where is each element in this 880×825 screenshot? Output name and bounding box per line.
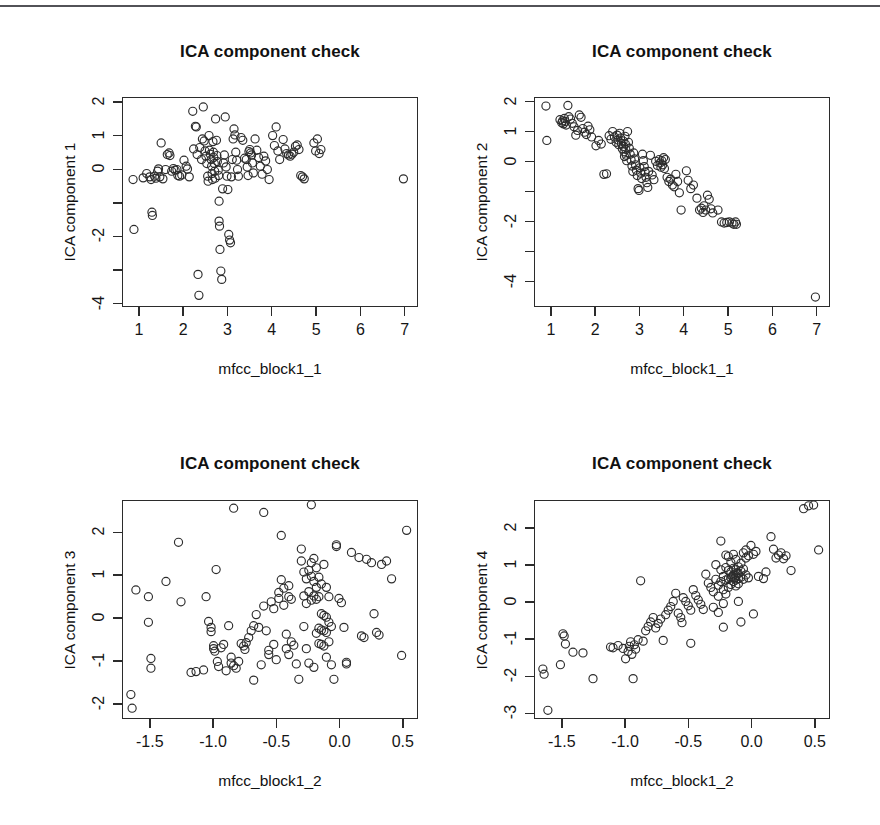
panel-4-title: ICA component check (462, 454, 880, 474)
panel-2-plot-area (534, 97, 830, 307)
panel-4-x-tick (561, 719, 562, 728)
panel-4-x-tick (624, 719, 625, 728)
panel-3-x-tick (402, 719, 403, 728)
panel-1-y-tick (113, 303, 122, 304)
panel-4-y-tick (525, 638, 534, 639)
chart-panel-4: ICA component check mfcc_block1_2 ICA co… (440, 412, 880, 824)
panel-3-y-axis-title: ICA component 3 (61, 550, 79, 669)
panel-2-y-tick (525, 191, 534, 192)
panel-3-y-tick-label: -1 (90, 638, 108, 682)
chart-panel-3: ICA component check mfcc_block1_2 ICA co… (0, 412, 440, 824)
panel-1-x-tick (315, 307, 316, 316)
panel-1-y-tick (113, 202, 122, 203)
panel-4-x-tick (814, 719, 815, 728)
panel-1-y-tick (113, 269, 122, 270)
panel-1-y-tick-label: -2 (90, 213, 108, 257)
panel-1-x-tick (182, 307, 183, 316)
panel-3-y-tick (113, 660, 122, 661)
panel-4-x-tick (688, 719, 689, 728)
panel-2-x-tick (550, 307, 551, 316)
panel-1-y-tick (113, 135, 122, 136)
panel-2-x-axis-title: mfcc_block1_1 (532, 360, 832, 378)
panel-3-y-tick (113, 617, 122, 618)
panel-4-y-tick (525, 601, 534, 602)
panel-3-x-tick-label: -1.0 (183, 733, 243, 751)
panel-1-x-tick-label: 7 (375, 321, 435, 339)
panel-2-x-tick (594, 307, 595, 316)
panel-3-plot-area (122, 500, 418, 719)
panel-1-scatter-points (123, 98, 417, 306)
panel-4-x-tick-label: 0.5 (785, 733, 845, 751)
panel-1-y-tick-label: -4 (90, 281, 108, 325)
panel-1-x-tick (404, 307, 405, 316)
panel-2-y-tick (525, 221, 534, 222)
panel-4-y-tick (525, 564, 534, 565)
panel-4-y-tick (525, 713, 534, 714)
panel-2-x-tick (639, 307, 640, 316)
chart-panel-1: ICA component check mfcc_block1_1 ICA co… (0, 0, 440, 412)
panel-1-plot-area (122, 97, 418, 307)
panel-1-title: ICA component check (50, 42, 490, 62)
panel-1-y-axis-title: ICA component 1 (61, 143, 79, 262)
panel-3-y-tick (113, 574, 122, 575)
panel-3-y-tick-label: -2 (90, 681, 108, 725)
panel-2-y-tick-label: 0 (502, 139, 520, 183)
panel-3-x-tick (212, 719, 213, 728)
panel-2-y-tick-label: -4 (502, 259, 520, 303)
panel-3-y-tick (113, 532, 122, 533)
panel-4-x-tick-label: 0.0 (722, 733, 782, 751)
panel-1-x-axis-title: mfcc_block1_1 (120, 360, 420, 378)
panel-1-x-tick (227, 307, 228, 316)
panel-4-y-tick (525, 527, 534, 528)
panel-4-plot-area (534, 500, 830, 719)
panel-4-scatter-points (535, 501, 829, 718)
panel-2-y-tick (525, 101, 534, 102)
panel-3-title: ICA component check (50, 454, 490, 474)
chart-panel-2: ICA component check mfcc_block1_1 ICA co… (440, 0, 880, 412)
panel-4-x-tick-label: -0.5 (658, 733, 718, 751)
panel-2-y-axis-title: ICA component 2 (473, 143, 491, 262)
panel-1-y-tick (113, 101, 122, 102)
panel-1-y-tick-label: 0 (90, 146, 108, 190)
panel-1-y-tick (113, 169, 122, 170)
panel-3-x-tick-label: -1.5 (120, 733, 180, 751)
panel-2-x-tick (772, 307, 773, 316)
panel-1-y-tick (113, 236, 122, 237)
panel-3-y-tick-label: 2 (90, 509, 108, 553)
panel-4-y-tick-label: -3 (502, 690, 520, 734)
panel-4-x-tick-label: -1.0 (595, 733, 655, 751)
panel-3-x-tick (149, 719, 150, 728)
panel-3-x-tick-label: 0.0 (310, 733, 370, 751)
panel-4-y-tick (525, 676, 534, 677)
panel-4-x-axis-title: mfcc_block1_2 (532, 772, 832, 790)
panel-2-y-tick (525, 131, 534, 132)
panel-2-y-tick (525, 251, 534, 252)
panel-4-x-tick (751, 719, 752, 728)
panel-2-scatter-points (535, 98, 829, 306)
panel-3-y-tick-label: 0 (90, 595, 108, 639)
panel-3-x-tick (276, 719, 277, 728)
panel-3-x-tick (339, 719, 340, 728)
panel-3-scatter-points (123, 501, 417, 718)
panel-2-x-tick (683, 307, 684, 316)
panel-3-x-tick-label: -0.5 (246, 733, 306, 751)
panel-2-x-tick (816, 307, 817, 316)
panel-3-x-axis-title: mfcc_block1_2 (120, 772, 420, 790)
panel-2-title: ICA component check (462, 42, 880, 62)
panel-3-y-tick (113, 703, 122, 704)
panel-4-y-axis-title: ICA component 4 (473, 550, 491, 669)
panel-2-x-tick (727, 307, 728, 316)
panel-1-x-tick (360, 307, 361, 316)
panel-3-x-tick-label: 0.5 (373, 733, 433, 751)
panel-2-y-tick (525, 281, 534, 282)
panel-2-x-tick-label: 7 (787, 321, 847, 339)
panel-2-y-tick-label: -2 (502, 199, 520, 243)
panel-3-y-tick-label: 1 (90, 552, 108, 596)
panel-1-x-tick (138, 307, 139, 316)
panel-1-x-tick (271, 307, 272, 316)
panel-2-y-tick (525, 161, 534, 162)
panel-4-x-tick-label: -1.5 (532, 733, 592, 751)
